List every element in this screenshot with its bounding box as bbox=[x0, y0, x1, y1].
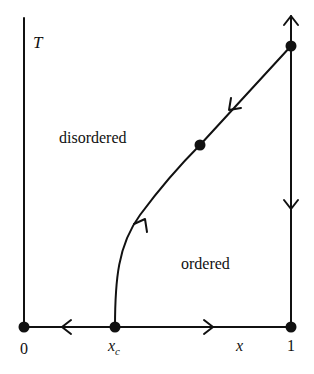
tick-zero-label: 0 bbox=[20, 340, 28, 358]
tick-one-label: 1 bbox=[287, 337, 295, 355]
phase-diagram bbox=[0, 0, 314, 374]
region-disordered-label: disordered bbox=[59, 129, 127, 147]
phase-boundary-lower bbox=[115, 145, 200, 327]
tick-xc-label: xc bbox=[108, 337, 120, 355]
tick-xc-sub: c bbox=[115, 345, 120, 357]
arrow-boundary-down-icon bbox=[229, 98, 241, 110]
t-axis-label: T bbox=[33, 33, 42, 53]
fixed-point-one bbox=[286, 322, 297, 333]
phase-boundary-upper bbox=[200, 46, 291, 145]
fixed-point-multicritical bbox=[195, 140, 206, 151]
region-ordered-label: ordered bbox=[181, 255, 230, 273]
fixed-point-xc bbox=[110, 322, 121, 333]
fixed-point-pure-critical bbox=[286, 41, 297, 52]
x-axis-label: x bbox=[236, 337, 243, 355]
fixed-point-origin bbox=[19, 322, 30, 333]
